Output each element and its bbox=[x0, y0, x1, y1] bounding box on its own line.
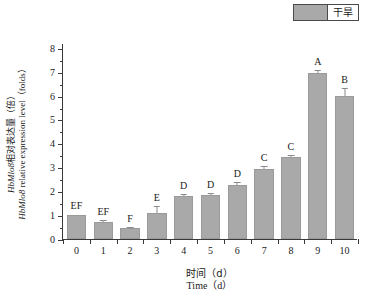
error-bar-cap bbox=[154, 206, 161, 207]
bar bbox=[120, 228, 139, 239]
significance-label: C bbox=[261, 153, 268, 163]
y-tick-major bbox=[58, 97, 63, 98]
x-tick bbox=[224, 239, 225, 244]
y-tick-minor bbox=[60, 61, 63, 62]
significance-label: E bbox=[154, 193, 160, 203]
y-tick-minor bbox=[60, 156, 63, 157]
y-tick-label: 5 bbox=[50, 115, 55, 125]
error-bar bbox=[156, 207, 157, 212]
x-tick-label: 6 bbox=[235, 246, 240, 256]
x-tick bbox=[251, 239, 252, 244]
error-bar bbox=[237, 183, 238, 184]
x-tick-label: 3 bbox=[154, 246, 159, 256]
significance-label: D bbox=[234, 169, 241, 179]
x-tick-label: 4 bbox=[181, 246, 186, 256]
error-bar bbox=[344, 89, 345, 96]
y-tick-label: 0 bbox=[50, 235, 55, 245]
error-bar bbox=[264, 167, 265, 169]
y-tick-label: 8 bbox=[50, 44, 55, 54]
error-bar-cap bbox=[234, 182, 241, 183]
y-axis-title: HbMlo8相对表达量（倍） HbMlo8 relative expressio… bbox=[0, 44, 34, 240]
x-tick bbox=[197, 239, 198, 244]
bar bbox=[201, 195, 220, 239]
bar bbox=[228, 185, 247, 239]
y-tick-minor bbox=[60, 132, 63, 133]
significance-label: F bbox=[127, 214, 133, 224]
legend-label-drought: 干旱 bbox=[328, 5, 358, 20]
legend-swatch-drought bbox=[294, 5, 328, 20]
error-bar-cap bbox=[180, 194, 187, 195]
y-tick-major bbox=[58, 216, 63, 217]
y-tick-major bbox=[58, 144, 63, 145]
x-tick bbox=[170, 239, 171, 244]
x-tick bbox=[90, 239, 91, 244]
x-tick-label: 5 bbox=[208, 246, 213, 256]
y-tick-label: 7 bbox=[50, 68, 55, 78]
y-tick-major bbox=[58, 49, 63, 50]
x-tick bbox=[143, 239, 144, 244]
significance-label: EF bbox=[97, 207, 109, 217]
x-tick bbox=[63, 239, 64, 244]
x-tick-label: 0 bbox=[74, 246, 79, 256]
y-tick-minor bbox=[60, 228, 63, 229]
bar bbox=[94, 222, 113, 239]
error-bar bbox=[130, 228, 131, 229]
x-axis-title: 时间（d） Time（d） bbox=[62, 268, 357, 292]
error-bar-cap bbox=[314, 70, 321, 71]
bar bbox=[67, 215, 86, 239]
y-tick-minor bbox=[60, 109, 63, 110]
error-bar bbox=[103, 221, 104, 222]
y-tick-minor bbox=[60, 180, 63, 181]
bar bbox=[308, 73, 327, 239]
x-tick-label: 1 bbox=[101, 246, 106, 256]
significance-label: EF bbox=[71, 201, 83, 211]
y-tick-label: 1 bbox=[50, 211, 55, 221]
x-tick-label: 10 bbox=[340, 246, 350, 256]
plot-area: 0123456780EF1EF2F3E4D5D6D7C8C9A10B bbox=[62, 44, 357, 240]
error-bar-cap bbox=[100, 220, 107, 221]
error-bar-cap bbox=[127, 227, 134, 228]
y-tick-major bbox=[58, 192, 63, 193]
x-tick bbox=[278, 239, 279, 244]
significance-label: A bbox=[314, 57, 321, 67]
significance-label: C bbox=[288, 142, 295, 152]
y-tick-label: 2 bbox=[50, 187, 55, 197]
x-tick bbox=[358, 239, 359, 244]
x-tick bbox=[304, 239, 305, 244]
error-bar-cap bbox=[341, 88, 348, 89]
error-bar bbox=[317, 71, 318, 73]
x-tick-label: 7 bbox=[262, 246, 267, 256]
y-tick-minor bbox=[60, 85, 63, 86]
bar bbox=[335, 96, 354, 239]
x-tick-label: 8 bbox=[288, 246, 293, 256]
y-tick-label: 4 bbox=[50, 139, 55, 149]
y-tick-major bbox=[58, 168, 63, 169]
bar bbox=[174, 196, 193, 239]
y-tick-major bbox=[58, 120, 63, 121]
x-tick-label: 9 bbox=[315, 246, 320, 256]
x-tick bbox=[117, 239, 118, 244]
chart-figure: 干旱 HbMlo8相对表达量（倍） HbMlo8 relative expres… bbox=[0, 0, 367, 306]
y-tick-minor bbox=[60, 204, 63, 205]
y-tick-major bbox=[58, 73, 63, 74]
error-bar-cap bbox=[261, 166, 268, 167]
bar bbox=[254, 169, 273, 239]
chart-legend: 干旱 bbox=[293, 4, 359, 21]
x-axis-title-en: Time（d） bbox=[62, 280, 357, 292]
significance-label: D bbox=[180, 181, 187, 191]
x-tick bbox=[331, 239, 332, 244]
x-tick-label: 2 bbox=[128, 246, 133, 256]
y-tick-label: 3 bbox=[50, 163, 55, 173]
x-axis-title-cn: 时间（d） bbox=[62, 268, 357, 280]
significance-label: D bbox=[207, 180, 214, 190]
error-bar bbox=[210, 194, 211, 196]
error-bar-cap bbox=[288, 155, 295, 156]
error-bar bbox=[290, 156, 291, 157]
y-tick-label: 6 bbox=[50, 92, 55, 102]
significance-label: B bbox=[341, 75, 348, 85]
bar bbox=[147, 213, 166, 239]
y-axis-title-line1-cn: 相对表达量（倍） bbox=[6, 91, 16, 163]
bar bbox=[281, 157, 300, 239]
error-bar bbox=[183, 195, 184, 197]
error-bar-cap bbox=[207, 193, 214, 194]
